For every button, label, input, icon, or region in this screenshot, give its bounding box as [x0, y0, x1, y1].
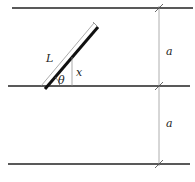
buffon-needle-diagram: L θ x a a	[0, 0, 195, 182]
label-a-bottom: a	[166, 117, 173, 130]
label-x: x	[76, 66, 83, 79]
label-L: L	[45, 52, 53, 65]
label-a-top: a	[166, 45, 173, 58]
label-theta: θ	[58, 74, 65, 87]
